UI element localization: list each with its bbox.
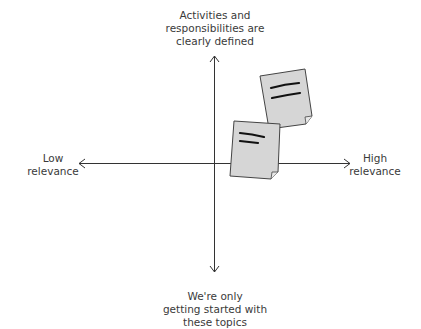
axes-canvas: [0, 0, 421, 329]
sticky-note-1[interactable]: [260, 69, 312, 129]
sticky-note-2[interactable]: [230, 121, 280, 179]
